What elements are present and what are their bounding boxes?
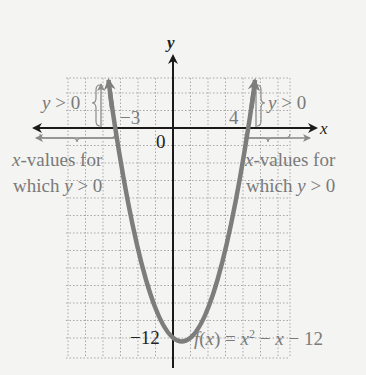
left-xvals-line2: which y > 0 bbox=[13, 176, 102, 195]
tick-neg12-label: −12 bbox=[130, 328, 160, 347]
y-axis-label: y bbox=[167, 34, 175, 51]
tick-4-label: 4 bbox=[229, 108, 239, 127]
parabola-right-arrow bbox=[252, 80, 256, 108]
parabola-left-arrow bbox=[109, 80, 113, 108]
left-y-gt-0-label: y > 0 bbox=[42, 93, 80, 112]
right-y-brace bbox=[257, 85, 265, 126]
parabola-curve bbox=[110, 93, 254, 342]
origin-label: 0 bbox=[156, 132, 166, 151]
right-y-gt-0-label: y > 0 bbox=[268, 93, 306, 112]
tick-neg3-label: −3 bbox=[120, 108, 140, 127]
left-xvals-line1: x-values for bbox=[12, 150, 102, 169]
right-xvals-line2: which y > 0 bbox=[246, 176, 335, 195]
function-label: f(x) = x2 − x − 12 bbox=[194, 328, 323, 348]
left-y-brace bbox=[92, 85, 100, 126]
right-xvals-line1: x-values for bbox=[245, 150, 335, 169]
x-axis-label: x bbox=[320, 120, 328, 137]
